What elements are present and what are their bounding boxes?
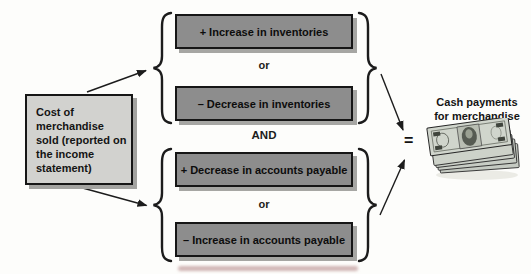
decrease-inventories-label: – Decrease in inventories xyxy=(198,98,331,110)
equals-sign: = xyxy=(404,132,413,150)
increase-inventories-box: + Increase in inventories xyxy=(175,14,353,49)
arrow-source-to-inventory-group xyxy=(87,71,146,93)
source-box-label: Cost of merchandise sold (reported on th… xyxy=(36,105,127,175)
arrow-payables-group-to-result xyxy=(380,160,405,215)
adjustments-column: + Increase in inventories or – Decrease … xyxy=(175,0,353,274)
source-box: Cost of merchandise sold (reported on th… xyxy=(25,94,133,185)
decrease-inventories-box: – Decrease in inventories xyxy=(175,86,353,121)
brace-left-payables-group xyxy=(154,149,172,261)
increase-accounts-payable-box: – Increase in accounts payable xyxy=(175,222,353,257)
diagram-canvas: Cost of merchandise sold (reported on th… xyxy=(0,0,531,274)
and-label: AND xyxy=(175,129,353,141)
result-caption-line1: Cash payments xyxy=(424,95,530,109)
cash-stack-icon xyxy=(426,118,524,182)
arrow-source-to-payables-group xyxy=(79,187,147,206)
brace-right-payables-group xyxy=(359,149,377,261)
arrow-inventory-group-to-result xyxy=(381,74,403,130)
decrease-accounts-payable-box: + Decrease in accounts payable xyxy=(175,152,353,187)
or-label-inventory: or xyxy=(175,59,353,71)
page-bleed-artifact xyxy=(178,266,358,271)
or-label-payables: or xyxy=(175,198,353,210)
increase-inventories-label: + Increase in inventories xyxy=(200,26,329,38)
brace-left-inventory-group xyxy=(154,13,172,123)
brace-right-inventory-group xyxy=(359,13,377,123)
increase-accounts-payable-label: – Increase in accounts payable xyxy=(183,234,345,246)
decrease-accounts-payable-label: + Decrease in accounts payable xyxy=(181,164,348,176)
